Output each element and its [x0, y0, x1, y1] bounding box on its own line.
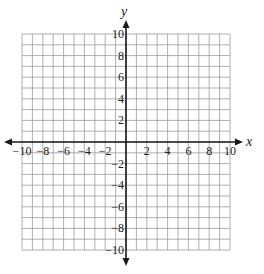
y-tick-label: 2 — [118, 113, 124, 127]
x-tick-label: 6 — [185, 144, 191, 158]
y-tick-label: 8 — [118, 49, 124, 63]
y-axis-label: y — [119, 4, 128, 19]
y-axis-down-arrow-icon — [123, 258, 130, 266]
x-tick-label: −6 — [57, 144, 70, 158]
y-tick-label: 4 — [118, 92, 124, 106]
x-axis-label: x — [245, 134, 253, 149]
x-tick-labels: −10−8−6−4−2246810 — [13, 144, 236, 158]
y-tick-label: −6 — [111, 200, 124, 214]
y-tick-label: −8 — [111, 221, 124, 235]
x-tick-label: −2 — [99, 144, 112, 158]
y-tick-label: 10 — [112, 27, 124, 41]
y-tick-label: −2 — [111, 157, 124, 171]
x-axis-left-arrow-icon — [4, 139, 12, 146]
x-tick-label: −8 — [36, 144, 49, 158]
y-tick-label: −4 — [111, 178, 124, 192]
y-tick-label: 6 — [118, 70, 124, 84]
x-tick-label: −4 — [78, 144, 91, 158]
x-tick-label: −10 — [13, 144, 32, 158]
x-tick-label: 4 — [165, 144, 171, 158]
x-tick-label: 8 — [206, 144, 212, 158]
x-axis-right-arrow-icon — [235, 139, 243, 146]
x-tick-label: 10 — [224, 144, 236, 158]
y-tick-label: −10 — [105, 243, 124, 257]
coordinate-plane: −10−8−6−4−2246810 108642−2−4−6−8−10 x y — [0, 0, 264, 274]
x-tick-label: 2 — [144, 144, 150, 158]
